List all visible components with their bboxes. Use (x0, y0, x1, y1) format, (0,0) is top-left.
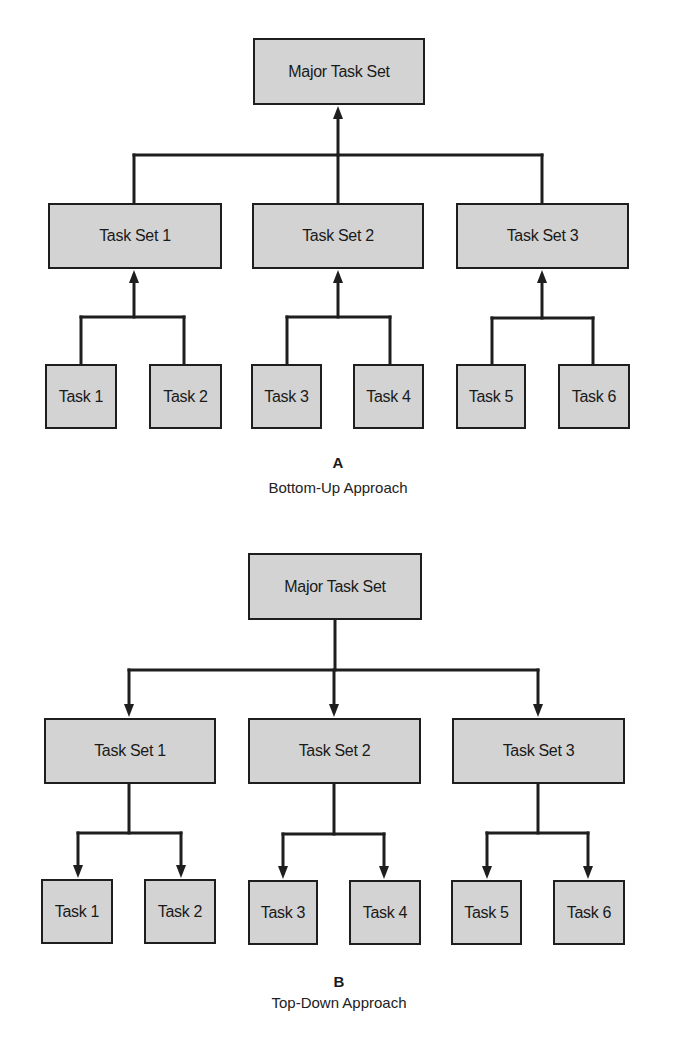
node-ts1: Task Set 1 (44, 718, 216, 784)
node-ts2: Task Set 2 (248, 718, 421, 784)
figure-caption: Top-Down Approach (271, 994, 406, 1011)
node-label: Task 2 (158, 903, 202, 921)
node-t2: Task 2 (144, 879, 216, 944)
diagram-b: Major Task SetTask Set 1Task Set 2Task S… (0, 0, 674, 1039)
node-label: Task 4 (363, 904, 407, 922)
node-major: Major Task Set (248, 553, 422, 620)
node-label: Task 3 (261, 904, 305, 922)
node-t3: Task 3 (248, 880, 318, 945)
node-t6: Task 6 (553, 880, 625, 945)
node-label: Major Task Set (284, 578, 385, 596)
figure-letter: B (334, 973, 345, 990)
node-ts3: Task Set 3 (452, 718, 625, 784)
node-label: Task Set 2 (299, 742, 371, 760)
node-t5: Task 5 (451, 880, 522, 945)
node-t4: Task 4 (349, 880, 421, 945)
node-label: Task Set 3 (503, 742, 575, 760)
node-label: Task Set 1 (94, 742, 166, 760)
node-t1: Task 1 (41, 879, 113, 944)
node-label: Task 1 (55, 903, 99, 921)
node-label: Task 6 (567, 904, 611, 922)
node-label: Task 5 (464, 904, 508, 922)
